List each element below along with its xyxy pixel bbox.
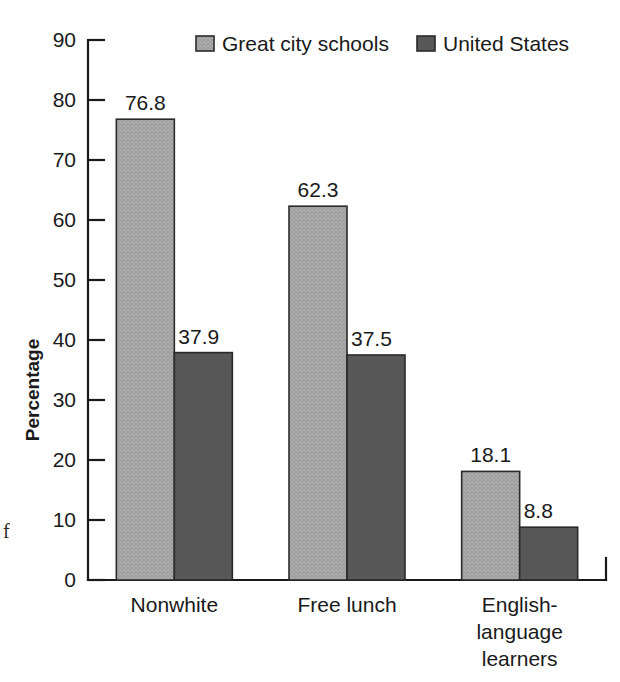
legend-swatch <box>196 36 214 51</box>
y-axis-title: Percentage <box>22 339 43 441</box>
chart-legend: Great city schoolsUnited States <box>196 32 569 55</box>
bar-value-label: 37.5 <box>351 327 392 350</box>
x-axis-category-label: Nonwhite <box>131 593 219 616</box>
chart-canvas: f Percentage 0102030405060708090 76.837.… <box>0 0 620 682</box>
legend-label: United States <box>443 32 569 55</box>
bar <box>289 206 347 580</box>
y-axis-tick-label: 90 <box>53 28 76 51</box>
bar-chart-figure: f Percentage 0102030405060708090 76.837.… <box>0 0 620 682</box>
y-axis-tick-label: 10 <box>53 508 76 531</box>
bar <box>174 353 232 580</box>
bar-value-label: 18.1 <box>470 443 511 466</box>
y-axis-tick-label: 60 <box>53 208 76 231</box>
page-margin-text-fragment: f <box>3 520 10 542</box>
y-axis-tick-label: 50 <box>53 268 76 291</box>
y-axis-tick-label: 20 <box>53 448 76 471</box>
bar <box>347 355 405 580</box>
x-axis-category-label: English- <box>482 593 558 616</box>
y-axis-tick-label: 70 <box>53 148 76 171</box>
y-axis-tick-label: 30 <box>53 388 76 411</box>
x-axis-category-label: learners <box>482 647 558 670</box>
y-axis-tick-label: 80 <box>53 88 76 111</box>
legend-swatch <box>417 36 435 51</box>
legend-label: Great city schools <box>222 32 389 55</box>
bar-value-label: 8.8 <box>524 499 553 522</box>
y-axis-tick-label: 0 <box>64 568 76 591</box>
x-axis-category-label: language <box>476 620 562 643</box>
x-axis-category-label: Free lunch <box>297 593 396 616</box>
y-axis-tick-label: 40 <box>53 328 76 351</box>
bar-value-label: 62.3 <box>298 178 339 201</box>
bar-value-label: 37.9 <box>178 325 219 348</box>
bar <box>116 119 174 580</box>
bar <box>520 527 578 580</box>
y-axis-title-text: Percentage <box>22 339 43 441</box>
bar <box>462 471 520 580</box>
bar-value-label: 76.8 <box>125 91 166 114</box>
